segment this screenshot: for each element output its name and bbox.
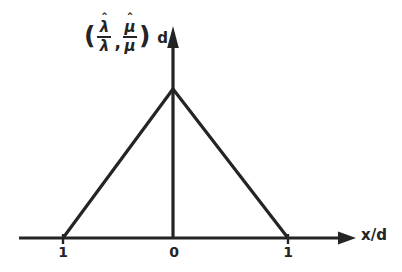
x-tick-label-right: 1 xyxy=(283,245,293,259)
y-label-comma: , xyxy=(114,34,120,54)
fraction-mu-numerator: ˆ μ xyxy=(123,14,136,35)
curve-right-limb xyxy=(173,89,288,238)
triangular-curve xyxy=(63,89,288,238)
fraction-lambda-numerator: ˆ λ xyxy=(99,14,111,35)
fraction-mu-denominator: μ xyxy=(123,39,136,54)
x-tick-label-origin: 0 xyxy=(169,245,179,259)
y-label-paren-open: ( xyxy=(84,23,95,48)
triangular-plot-svg xyxy=(0,0,402,272)
fraction-lambda-denominator: λ xyxy=(99,39,111,54)
y-label-paren-close: ) xyxy=(139,23,150,48)
y-axis xyxy=(167,26,179,238)
y-axis-arrowhead-icon xyxy=(167,26,179,48)
y-label-d-symbol: d xyxy=(157,31,168,46)
y-label-fraction-mu: ˆ μ μ xyxy=(123,14,137,54)
x-tick-label-left: 1 xyxy=(58,245,68,259)
x-axis-arrowhead-icon xyxy=(338,232,356,245)
x-axis xyxy=(19,232,356,245)
circumflex-accent-icon: ˆ xyxy=(101,12,108,25)
curve-left-limb xyxy=(63,89,173,238)
circumflex-accent-icon: ˆ xyxy=(127,12,134,25)
figure-container: ( ˆ λ λ , ˆ μ μ ) d x/d 1 0 1 xyxy=(0,0,402,272)
y-label-fraction-lambda: ˆ λ λ xyxy=(97,14,111,54)
y-axis-label: ( ˆ λ λ , ˆ μ μ ) d xyxy=(84,14,168,54)
x-axis-label: x/d xyxy=(361,228,387,243)
